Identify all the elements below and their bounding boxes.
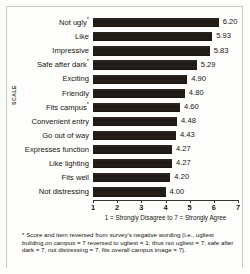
bar-category-label: Expresses function — [0, 146, 89, 154]
bar-track — [93, 159, 238, 168]
x-axis-tick-label: 4 — [163, 203, 167, 212]
x-axis-tick-label: 3 — [139, 203, 143, 212]
bar-track — [93, 145, 238, 154]
bar-row: Expresses function4.27 — [0, 143, 250, 157]
bar-row: Like lighting4.27 — [0, 157, 250, 171]
bar — [93, 60, 197, 69]
bar-value-label: 5.93 — [216, 31, 231, 40]
footnote-marker: * — [22, 231, 24, 238]
bar-category-label: Convenient entry — [0, 118, 89, 126]
bar-value-label: 4.27 — [176, 144, 191, 153]
bar-row: Friendly4.80 — [0, 86, 250, 100]
bar — [93, 18, 219, 27]
bar-row: Exciting4.90 — [0, 72, 250, 86]
x-axis-tick-label: 2 — [115, 203, 119, 212]
x-axis-caption: 1 = Strongly Disagree to 7 = Strongly Ag… — [93, 214, 238, 222]
bar-category-label: Fits well — [0, 174, 89, 182]
bar-track — [93, 18, 238, 27]
bar-row: Convenient entry4.48 — [0, 115, 250, 129]
bar-track — [93, 117, 238, 126]
bar — [93, 32, 212, 41]
bar-category-label: Like — [0, 33, 89, 41]
bar-row: Fits campus*4.60 — [0, 101, 250, 115]
bar-track — [93, 187, 238, 196]
bar-row: Like5.93 — [0, 30, 250, 44]
bar-track — [93, 173, 238, 182]
bar — [93, 159, 172, 168]
bar-value-label: 4.48 — [181, 116, 196, 125]
bar-value-label: 4.20 — [174, 172, 189, 181]
bar-value-label: 5.29 — [201, 60, 216, 69]
bar-track — [93, 89, 238, 98]
bar-track — [93, 75, 238, 84]
bar — [93, 103, 180, 112]
bar-value-label: 4.27 — [176, 158, 191, 167]
footnote: * Score and item reversed from survey's … — [22, 231, 235, 254]
bar-row: Go out of way4.43 — [0, 129, 250, 143]
x-axis-tick-label: 1 — [91, 203, 95, 212]
bar — [93, 131, 176, 140]
bar-category-label: Not ugly* — [0, 19, 89, 27]
footnote-text: Score and item reversed from survey's ne… — [22, 231, 233, 253]
reversed-item-asterisk: * — [87, 17, 89, 23]
page-canvas: SCALE Not ugly*6.20Like5.93Impressive5.8… — [0, 0, 250, 274]
bar-track — [93, 60, 238, 69]
bar-value-label: 6.20 — [223, 17, 238, 26]
bar-track — [93, 103, 238, 112]
bar-category-label: Exciting — [0, 75, 89, 83]
bar — [93, 145, 172, 154]
bar-value-label: 4.43 — [180, 130, 195, 139]
bar-value-label: 4.60 — [184, 102, 199, 111]
x-axis-tick-label: 7 — [236, 203, 240, 212]
bar-row: Not ugly*6.20 — [0, 16, 250, 30]
bar-category-label: Impressive — [0, 47, 89, 55]
bar-category-label: Fits campus* — [0, 104, 89, 112]
bar-value-label: 4.80 — [189, 88, 204, 97]
bar — [93, 46, 210, 55]
bar-category-label: Safe after dark* — [0, 61, 89, 69]
bar — [93, 173, 170, 182]
reversed-item-asterisk: * — [87, 59, 89, 65]
bar-category-label: Like lighting — [0, 160, 89, 168]
bar-value-label: 4.00 — [170, 187, 185, 196]
bar-track — [93, 131, 238, 140]
bar-row: Not distressing4.00 — [0, 185, 250, 199]
bar — [93, 117, 177, 126]
bar-rows: Not ugly*6.20Like5.93Impressive5.83Safe … — [0, 16, 250, 199]
bar-category-label: Friendly — [0, 90, 89, 98]
bar-row: Fits well4.20 — [0, 171, 250, 185]
bar — [93, 75, 187, 84]
bar — [93, 187, 166, 196]
reversed-item-asterisk: * — [87, 101, 89, 107]
bar-value-label: 5.83 — [214, 46, 229, 55]
bar-value-label: 4.90 — [191, 74, 206, 83]
bar-row: Impressive5.83 — [0, 44, 250, 58]
bar-row: Safe after dark*5.29 — [0, 58, 250, 72]
horizontal-bar-chart: SCALE Not ugly*6.20Like5.93Impressive5.8… — [0, 0, 250, 212]
bar — [93, 89, 185, 98]
x-axis-tick-label: 5 — [188, 203, 192, 212]
bar-category-label: Not distressing — [0, 188, 89, 196]
bar-category-label: Go out of way — [0, 132, 89, 140]
x-axis-tick-label: 6 — [212, 203, 216, 212]
